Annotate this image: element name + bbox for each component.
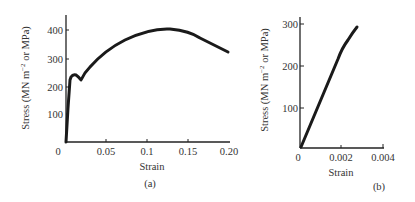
- chart-b-xtick-0: 0: [295, 152, 300, 163]
- chart-a-ytick-400: 400: [47, 25, 63, 36]
- chart-a-xtick-0.20: 0.20: [220, 146, 238, 157]
- chart-b: 100 200 300 0 0.002 0.004 Strain (b) Str…: [258, 17, 396, 193]
- chart-a-xtick-0.15: 0.15: [179, 146, 197, 157]
- chart-a: 100 200 300 400 0 0.05 0.1 0.15 0.20 Str…: [19, 15, 238, 190]
- chart-b-ytick-100: 100: [282, 103, 298, 114]
- chart-a-xtick-0: 0: [55, 146, 60, 157]
- chart-b-xtick-0.002: 0.002: [329, 152, 353, 163]
- chart-a-ytick-300: 300: [47, 54, 63, 65]
- chart-b-ylabel: Stress (MN m−2 or MPa): [258, 28, 271, 132]
- chart-b-ytick-300: 300: [282, 19, 298, 30]
- chart-b-ytick-200: 200: [282, 61, 298, 72]
- chart-a-curve: [66, 29, 228, 142]
- chart-a-ytick-200: 200: [47, 82, 63, 93]
- figure: 100 200 300 400 0 0.05 0.1 0.15 0.20 Str…: [0, 0, 415, 202]
- chart-a-xtick-0.05: 0.05: [97, 146, 115, 157]
- chart-b-curve: [301, 27, 357, 147]
- chart-a-xtick-0.1: 0.1: [140, 146, 153, 157]
- chart-b-xtick-0.004: 0.004: [371, 152, 395, 163]
- chart-b-caption: (b): [373, 181, 386, 193]
- chart-a-ylabel: Stress (MN m−2 or MPa): [19, 26, 32, 130]
- chart-a-xlabel: Strain: [139, 161, 165, 172]
- chart-a-caption: (a): [144, 178, 156, 190]
- chart-a-ytick-100: 100: [47, 109, 63, 120]
- chart-b-xlabel: Strain: [328, 167, 354, 178]
